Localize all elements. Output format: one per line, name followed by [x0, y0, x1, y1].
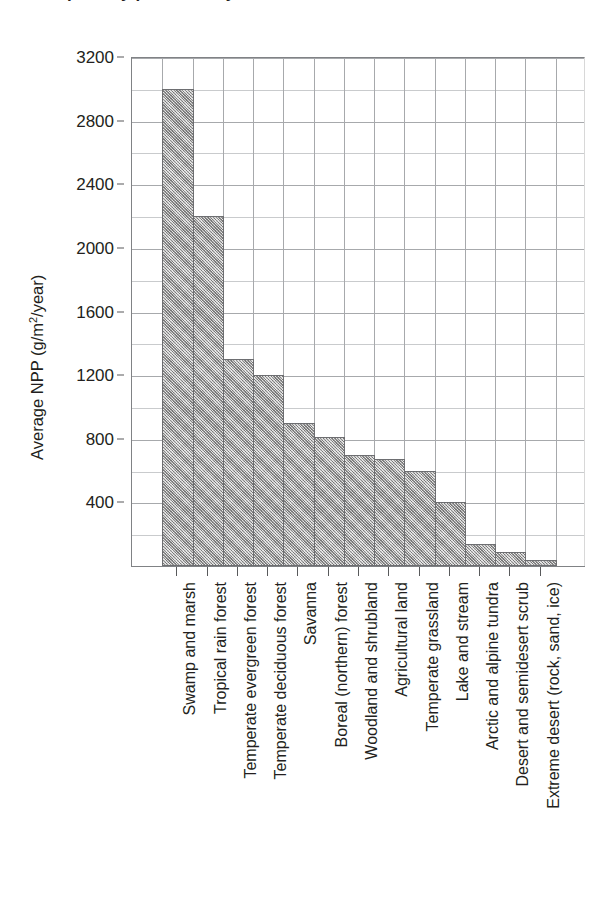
x-tick-mark	[479, 567, 480, 576]
x-tick-mark	[207, 567, 208, 576]
y-tick-mark	[117, 438, 124, 439]
x-tick-mark	[267, 567, 268, 576]
bar[interactable]	[314, 437, 345, 566]
y-tick-label: 2400	[76, 176, 114, 193]
x-category-label-text: Agricultural land	[394, 582, 410, 697]
x-category-label-text: Temperate evergreen forest	[243, 582, 259, 779]
bar[interactable]	[162, 89, 194, 566]
x-category-label-text: Swamp and marsh	[182, 582, 198, 715]
x-category-label: Arctic and alpine tundra	[485, 582, 501, 750]
x-axis-category-labels: Swamp and marshTropical rain forestTempe…	[131, 582, 585, 922]
x-category-label-text: Extreme desert (rock, sand, ice)	[546, 582, 562, 809]
y-tick-mark	[117, 375, 124, 376]
x-category-label: Boreal (northern) forest	[334, 582, 350, 747]
x-category-label: Lake and stream	[455, 582, 471, 701]
x-category-label-text: Woodland and shrubland	[364, 582, 380, 760]
x-category-label-text: Lake and stream	[455, 582, 471, 701]
y-tick-mark	[117, 184, 124, 185]
x-category-label: Temperate deciduous forest	[273, 582, 289, 779]
y-tick-mark	[117, 247, 124, 248]
bar[interactable]	[404, 471, 436, 566]
bar[interactable]	[344, 455, 375, 566]
x-category-label-text: Temperate grassland	[425, 582, 441, 731]
bar[interactable]	[465, 544, 496, 566]
x-category-label-text: Desert and semidesert scrub	[515, 582, 531, 787]
y-tick-label: 3200	[76, 49, 114, 66]
x-tick-mark	[449, 567, 450, 576]
bar[interactable]	[223, 359, 254, 566]
bar[interactable]	[253, 375, 284, 566]
bar[interactable]	[283, 423, 315, 566]
y-axis-title: Average NPP (g/m2/year)	[0, 0, 34, 566]
bars-layer	[132, 58, 584, 566]
x-tick-mark	[540, 567, 541, 576]
x-tick-mark	[297, 567, 298, 576]
x-category-label: Extreme desert (rock, sand, ice)	[546, 582, 562, 809]
x-tick-mark	[328, 567, 329, 576]
y-tick-label: 1600	[76, 303, 114, 320]
y-tick-label: 400	[86, 494, 114, 511]
x-axis-tick-marks	[131, 567, 585, 577]
x-category-label: Tropical rain forest	[213, 582, 229, 714]
y-tick-mark	[117, 120, 124, 121]
x-category-label-text: Arctic and alpine tundra	[485, 582, 501, 750]
bar[interactable]	[495, 552, 526, 566]
bar[interactable]	[374, 459, 405, 566]
y-axis-tick-labels: 400800120016002000240028003200	[34, 0, 124, 600]
npp-bar-chart: Average NPP (g/m2/year) 4008001200160020…	[0, 0, 606, 922]
x-category-label: Desert and semidesert scrub	[515, 582, 531, 787]
x-tick-mark	[176, 567, 177, 576]
x-category-label-text: Boreal (northern) forest	[334, 582, 350, 747]
y-tick-label: 800	[86, 430, 114, 447]
bar[interactable]	[435, 502, 466, 566]
x-category-label: Agricultural land	[394, 582, 410, 697]
plot-area	[131, 57, 585, 566]
y-tick-label: 2000	[76, 239, 114, 256]
y-tick-label: 1200	[76, 367, 114, 384]
y-tick-mark	[117, 311, 124, 312]
y-tick-label: 2800	[76, 112, 114, 129]
x-tick-mark	[419, 567, 420, 576]
x-category-label: Savanna	[303, 582, 319, 645]
x-tick-mark	[388, 567, 389, 576]
x-category-label: Woodland and shrubland	[364, 582, 380, 760]
x-tick-mark	[237, 567, 238, 576]
y-tick-mark	[117, 57, 124, 58]
x-category-label: Temperate grassland	[425, 582, 441, 731]
x-category-label-text: Savanna	[303, 582, 319, 645]
x-category-label: Temperate evergreen forest	[243, 582, 259, 779]
bar[interactable]	[193, 216, 224, 566]
x-category-label-text: Tropical rain forest	[213, 582, 229, 714]
x-category-label-text: Temperate deciduous forest	[273, 582, 289, 779]
y-tick-mark	[117, 502, 124, 503]
x-category-label: Swamp and marsh	[182, 582, 198, 715]
x-tick-mark	[358, 567, 359, 576]
x-tick-mark	[509, 567, 510, 576]
